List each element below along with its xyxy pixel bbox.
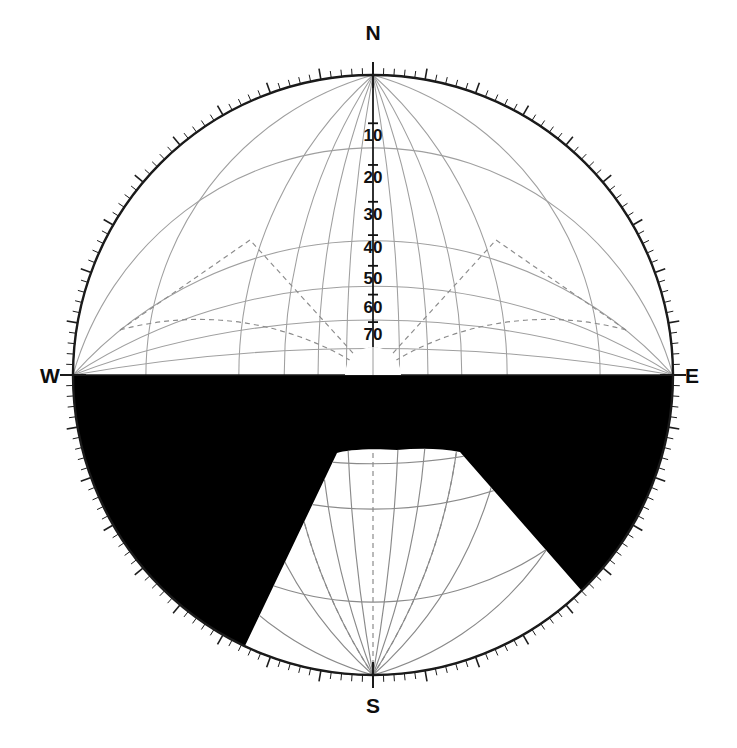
dip-scale-label: 10: [364, 126, 383, 145]
caption-strip: [0, 732, 737, 748]
stereonet-svg: 1020304050607080 N E S W: [0, 0, 737, 748]
cardinal-label-north: N: [365, 21, 380, 44]
dip-scale-label: 60: [364, 298, 383, 317]
dip-scale-label: 30: [364, 205, 383, 224]
cardinal-label-south: S: [366, 694, 380, 717]
dip-scale-label: 20: [364, 168, 383, 187]
dip-scale-label: 50: [364, 269, 383, 288]
stereonet-figure: 1020304050607080 N E S W: [0, 0, 737, 748]
dip-scale-label: 40: [364, 238, 383, 257]
dip-scale-label: 70: [364, 325, 383, 344]
cardinal-label-west: W: [40, 364, 60, 387]
cardinal-label-east: E: [685, 364, 699, 387]
